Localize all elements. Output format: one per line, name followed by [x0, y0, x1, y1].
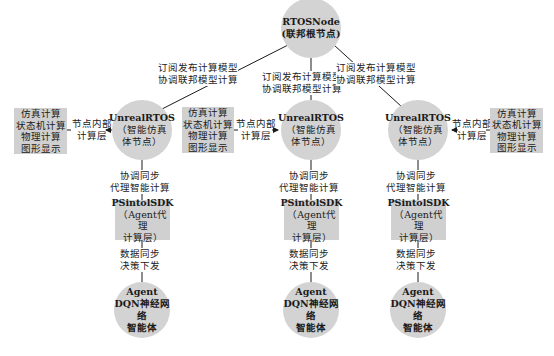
inner-link-label-left: 节点内部 计算层	[72, 118, 112, 142]
sdk-box-middle: PSintolSDK （Agent代理 计算层）	[284, 200, 339, 240]
sim-node-left: UnrealRTOS （智能仿真 体节点）	[112, 100, 172, 160]
sim-node-middle: UnrealRTOS （智能仿真 体节点）	[281, 100, 341, 160]
sim-node-right: UnrealRTOS （智能仿真 体节点）	[388, 100, 448, 160]
compute-box-left: 仿真计算 状态机计算 物理计算 图形显示	[14, 108, 67, 154]
root-node-title: RTOSNode	[282, 16, 340, 28]
data-link-label-right: 数据同步 决策下发	[396, 248, 436, 272]
sdk-box-left: PSintolSDK （Agent代理 计算层）	[115, 200, 170, 240]
root-node-subtitle: (联邦根节点)	[282, 28, 341, 40]
root-node: RTOSNode (联邦根节点)	[281, 0, 341, 58]
data-link-label-left: 数据同步 决策下发	[120, 248, 160, 272]
agent-link-label-right: 协调同步 代理智能计算	[386, 170, 446, 194]
inner-link-label-middle: 节点内部 计算层	[236, 118, 276, 142]
agent-link-label-middle: 协调同步 代理智能计算	[279, 170, 339, 194]
agent-node-right: Agent DQN神经网络 智能体	[390, 282, 446, 338]
inner-link-label-right: 节点内部 计算层	[452, 118, 492, 142]
federation-link-label-middle: 订阅发布计算模型 协调联邦模型计算	[262, 71, 342, 95]
agent-link-label-left: 协调同步 代理智能计算	[110, 170, 170, 194]
agent-node-middle: Agent DQN神经网络 智能体	[283, 282, 339, 338]
compute-box-middle: 仿真计算 状态机计算 物理计算 图形显示	[182, 107, 234, 153]
compute-box-right: 仿真计算 状态机计算 物理计算 图形显示	[490, 108, 543, 153]
federation-link-label-right: 订阅发布计算模型 协调联邦模型计算	[336, 62, 416, 86]
connector-lines	[0, 0, 554, 356]
data-link-label-middle: 数据同步 决策下发	[289, 248, 329, 272]
federation-link-label-left: 订阅发布计算模型 协调联邦模型计算	[158, 62, 238, 86]
sdk-box-right: PSintolSDK （Agent代理 计算层）	[391, 200, 446, 240]
agent-node-left: Agent DQN神经网络 智能体	[114, 282, 170, 338]
